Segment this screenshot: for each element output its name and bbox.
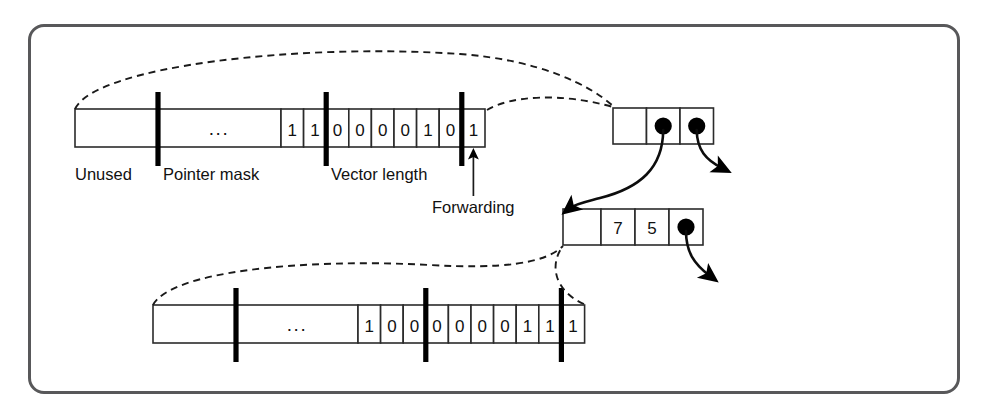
middle-object: 7 5 [563, 209, 703, 245]
bottom-bit-value-7: 1 [523, 317, 532, 336]
figure-canvas: ... 1 1 0 0 0 0 1 0 1 U [0, 0, 990, 419]
top-bit-value-6: 1 [423, 121, 432, 140]
middle-cell-0 [563, 209, 601, 245]
top-bit-value-2: 0 [333, 121, 342, 140]
dashed-link-icon-bottom-span [153, 246, 563, 305]
bottom-header-word: ... 1 0 0 0 0 0 0 1 1 1 [153, 288, 585, 362]
label-pointer-mask: Pointer mask [163, 165, 260, 183]
bottom-bit-value-4: 0 [455, 317, 464, 336]
bottom-bit-value-0: 1 [365, 317, 374, 336]
top-bit-value-8: 1 [469, 121, 478, 140]
bottom-bit-value-3: 0 [432, 317, 441, 336]
label-vector-length: Vector length [331, 165, 427, 183]
middle-cell-value-1: 7 [613, 219, 622, 238]
label-unused: Unused [75, 165, 132, 183]
top-bit-value-0: 1 [288, 121, 297, 140]
bottom-ellipsis: ... [287, 314, 307, 335]
top-right-cell-0 [613, 108, 647, 144]
figure-root: ... 1 1 0 0 0 0 1 0 1 U [0, 0, 990, 419]
top-bit-value-4: 0 [378, 121, 387, 140]
bottom-bit-value-2: 0 [410, 317, 419, 336]
top-bit-value-5: 0 [401, 121, 410, 140]
bottom-unused-field [153, 305, 236, 343]
dashed-link-icon-top-short [487, 97, 613, 110]
top-bit-value-7: 0 [446, 121, 455, 140]
bottom-bit-value-6: 0 [500, 317, 509, 336]
bottom-bit-value-8: 1 [545, 317, 554, 336]
middle-cell-value-2: 5 [647, 219, 656, 238]
top-ellipsis: ... [209, 118, 229, 139]
top-unused-field [75, 109, 158, 147]
bottom-bit-value-1: 0 [387, 317, 396, 336]
bottom-bit-value-9: 1 [568, 317, 577, 336]
top-bit-value-1: 1 [310, 121, 319, 140]
top-bit-value-3: 0 [355, 121, 364, 140]
label-forwarding: Forwarding [432, 198, 515, 216]
top-header-word: ... 1 1 0 0 0 0 1 0 1 [75, 92, 485, 166]
bottom-bit-value-5: 0 [478, 317, 487, 336]
